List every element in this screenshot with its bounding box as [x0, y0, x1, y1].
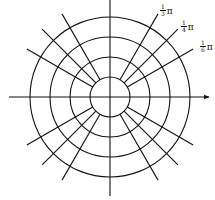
angle-label-pi-sixth: 16 π — [200, 40, 213, 53]
ray-315deg — [124, 111, 178, 165]
ray-135deg — [42, 29, 96, 83]
ray-225deg — [42, 111, 96, 165]
ray-45deg — [124, 29, 178, 83]
angle-label-pi-third: 13 π — [160, 4, 173, 17]
angle-label-pi-fourth: 14 π — [181, 20, 194, 33]
